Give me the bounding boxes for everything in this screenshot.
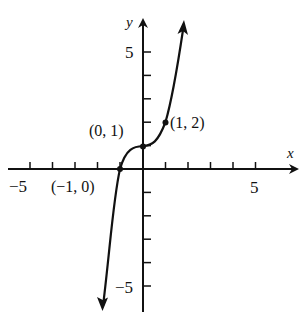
point-label-1-2: (1, 2) [170, 114, 205, 132]
point-neg1-0 [117, 166, 123, 172]
graph-figure: y x 5 −5 −5 5 (−1, 0) (0, 1) (1, 2) [0, 0, 302, 312]
cubic-graph: y x 5 −5 −5 5 (−1, 0) (0, 1) (1, 2) [0, 0, 302, 312]
point-label-0-1: (0, 1) [89, 122, 124, 140]
point-1-2 [163, 120, 169, 126]
point-label-neg1-0: (−1, 0) [51, 178, 95, 196]
x-tick-label-neg5: −5 [9, 177, 27, 196]
x-axis-label: x [286, 145, 294, 161]
y-tick-label-5: 5 [125, 43, 134, 62]
curve-arrow-down-icon [97, 297, 108, 311]
y-tick-label-neg5: −5 [115, 278, 133, 297]
point-0-1 [140, 144, 146, 150]
x-tick-label-5: 5 [250, 178, 259, 197]
y-axis-label: y [124, 14, 133, 30]
